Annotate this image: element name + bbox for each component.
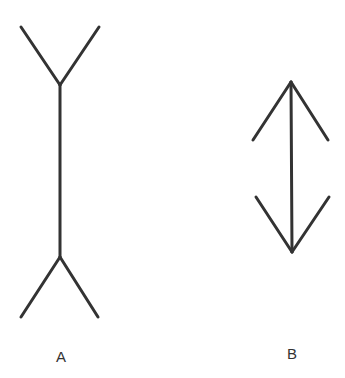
figure-a-fin-bottom-left (21, 257, 60, 317)
figure-b-fin-bottom-right (292, 197, 329, 252)
figure-a-fin-top-left (21, 27, 60, 85)
figure-b-shaft (291, 82, 292, 252)
figure-b (253, 82, 329, 252)
figure-a (21, 27, 99, 317)
figure-b-fin-top-right (291, 82, 328, 140)
illusion-diagram (0, 0, 345, 378)
label-b: B (287, 345, 297, 362)
figure-b-fin-top-left (253, 82, 291, 140)
figure-b-fin-bottom-left (256, 197, 292, 252)
figure-a-fin-top-right (60, 27, 99, 85)
label-a: A (56, 348, 66, 365)
figure-a-fin-bottom-right (60, 257, 98, 317)
